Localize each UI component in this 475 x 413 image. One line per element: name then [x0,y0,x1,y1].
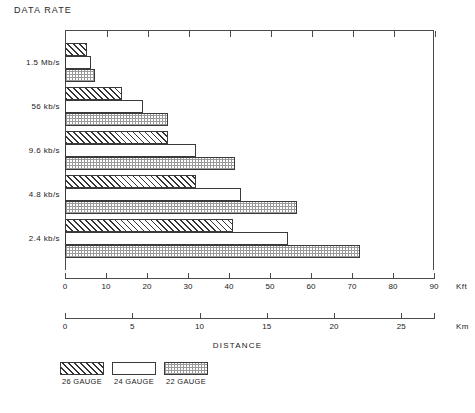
category-label: 2.4 kb/s [29,234,60,243]
kft-axis-ticklabel: 90 [430,282,439,291]
category-axis-labels: 1.5 Mb/s56 kb/s9.6 kb/s4.8 kb/s2.4 kb/s [0,30,60,270]
km-axis-tick [334,313,335,318]
kft-axis-ticklabel: 50 [266,282,275,291]
km-axis-ticklabel: 20 [330,322,339,331]
legend-item: 22 GAUGE [164,362,208,386]
legend-label: 22 GAUGE [166,377,206,386]
page-title: DATA RATE [14,5,72,15]
bar-9-6-kb-s-24-gauge [65,144,196,157]
kft-axis-line [65,278,434,279]
bar-4-8-kb-s-24-gauge [65,188,241,201]
bar-1-5-mb-s-24-gauge [65,56,91,69]
kft-axis-tick [147,273,148,278]
bar-2-4-kb-s-24-gauge [65,232,288,245]
kft-axis-ticklabel: 70 [348,282,357,291]
kft-axis-ticklabel: 60 [307,282,316,291]
category-label: 4.8 kb/s [29,190,60,199]
legend-item: 26 GAUGE [60,362,104,386]
km-axis-unit-label: Km [456,322,469,331]
legend-swatch-26-gauge [60,362,104,375]
category-label: 9.6 kb/s [29,146,60,155]
km-axis-tick [267,313,268,318]
km-axis-ticklabel: 15 [262,322,271,331]
kft-axis-endcap [434,273,435,279]
kft-axis-tick [65,273,66,279]
km-axis-ticklabel: 0 [63,322,67,331]
kft-axis-tick [188,273,189,278]
bar-56-kb-s-22-gauge [65,113,168,126]
kft-axis-tick [270,273,271,278]
kft-axis-tick [311,273,312,278]
bar-9-6-kb-s-22-gauge [65,157,235,170]
bar-9-6-kb-s-26-gauge [65,131,168,144]
kft-axis-ticklabel: 40 [225,282,234,291]
kft-axis-ticklabel: 30 [184,282,193,291]
legend: 26 GAUGE24 GAUGE22 GAUGE [60,362,208,386]
bar-4-8-kb-s-26-gauge [65,175,196,188]
legend-item: 24 GAUGE [112,362,156,386]
plot-top-tick [435,31,436,37]
kft-axis-unit-label: Kft [456,282,467,291]
kft-axis-tick [352,273,353,278]
kft-axis-tick [106,273,107,278]
category-label: 1.5 Mb/s [26,58,60,67]
legend-label: 24 GAUGE [114,377,154,386]
x-axis-label: DISTANCE [0,341,475,350]
kft-axis-ticklabel: 10 [102,282,111,291]
bar-2-4-kb-s-22-gauge [65,245,360,258]
kft-axis-ticklabel: 0 [63,282,67,291]
km-axis-ticklabel: 5 [130,322,134,331]
km-axis-ticklabel: 10 [195,322,204,331]
legend-label: 26 GAUGE [62,377,102,386]
km-axis-tick [200,313,201,318]
category-label: 56 kb/s [31,102,60,111]
legend-swatch-24-gauge [112,362,156,375]
kft-axis-tick [393,273,394,278]
kft-axis-tick [229,273,230,278]
legend-swatch-22-gauge [164,362,208,375]
bar-4-8-kb-s-22-gauge [65,201,297,214]
bar-2-4-kb-s-26-gauge [65,219,233,232]
km-axis-ticklabel: 25 [397,322,406,331]
kft-axis-ticklabel: 80 [389,282,398,291]
km-axis-tick [401,313,402,319]
bar-1-5-mb-s-26-gauge [65,43,87,56]
bar-56-kb-s-26-gauge [65,87,122,100]
bars-layer [65,30,434,270]
km-axis-tick [132,313,133,318]
kft-axis-ticklabel: 20 [143,282,152,291]
km-axis-line [65,318,434,319]
km-axis-tick [65,313,66,319]
bar-1-5-mb-s-22-gauge [65,69,95,82]
bar-56-kb-s-24-gauge [65,100,143,113]
km-axis-endcap [434,313,435,319]
